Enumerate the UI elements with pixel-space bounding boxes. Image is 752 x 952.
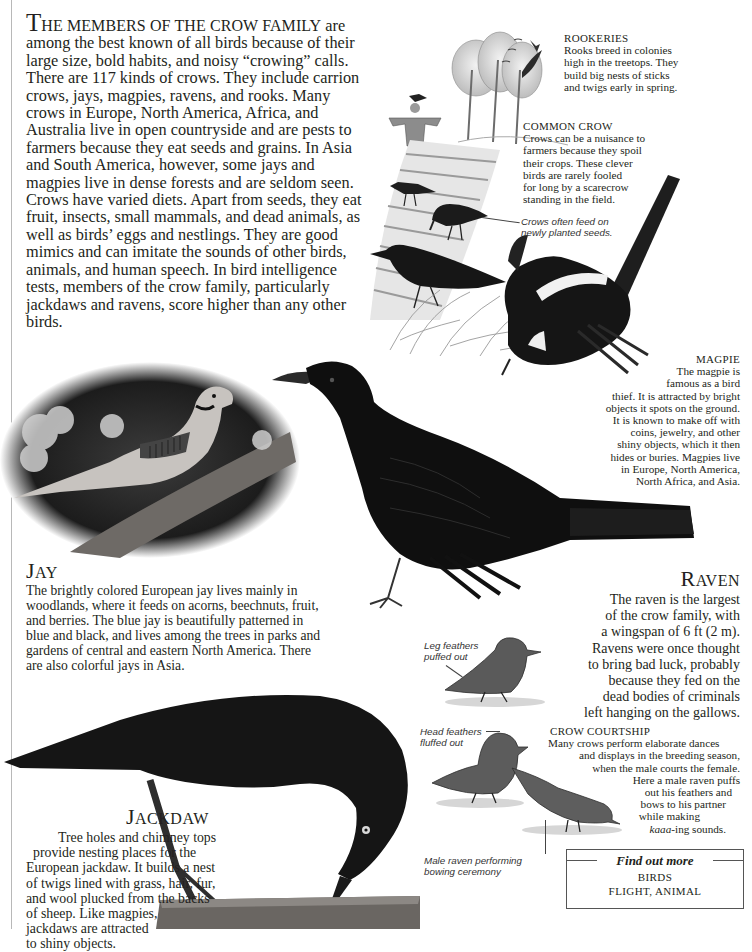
magpie-line: coins, jewelry, and other	[560, 426, 740, 438]
rookeries-caption: ROOKERIES Rooks breed in colonies high i…	[564, 32, 744, 93]
magpie-line: thief. It is attracted by bright	[560, 390, 740, 402]
courtship-caption: CROW COURTSHIP Many crows perform elabor…	[520, 725, 740, 835]
common-crow-line: Crows can be a nuisance to	[523, 132, 693, 144]
jackdaw-title: JACKDAW	[26, 806, 236, 830]
head-feathers-label: Head feathers fluffed out	[420, 726, 500, 748]
jay-section: JAY The brightly colored European jay li…	[26, 560, 366, 673]
rookeries-heading: ROOKERIES	[564, 32, 744, 44]
raven-line: of the crow family, with	[540, 608, 740, 624]
leg-label-line: puffed out	[424, 651, 494, 662]
courtship-line: Here a male raven puffs	[520, 774, 740, 786]
seeds-label: Crows often feed on newly planted seeds.	[521, 216, 651, 238]
jay-line: are also colorful jays in Asia.	[26, 659, 366, 674]
magpie-line: famous as a bird	[560, 377, 740, 389]
jackdaw-title-cap: J	[126, 804, 135, 829]
intro-paragraph: THE MEMBERS OF THE CROW FAMILY are among…	[26, 14, 366, 330]
magpie-line: hides or buries. Magpies live	[560, 451, 740, 463]
magpie-line: in Europe, North America,	[560, 463, 740, 475]
male-label-line: bowing ceremony	[424, 866, 554, 877]
common-crow-line: farmers because they spoil	[523, 144, 693, 156]
intro-text: are among the best known of all birds be…	[26, 16, 361, 331]
magpie-line: The magpie is	[560, 365, 740, 377]
jackdaw-line: to shiny objects.	[26, 936, 236, 951]
common-crow-line: for long by a scarecrow	[523, 181, 693, 193]
rookeries-line: high in the treetops. They	[564, 56, 744, 68]
courtship-line: and displays in the breeding season,	[520, 749, 740, 761]
jackdaw-line: of sheep. Like magpies,	[26, 906, 236, 921]
jay-title: JAY	[26, 560, 366, 584]
find-rule-right	[713, 860, 743, 861]
magpie-line: objects it spots on the ground.	[560, 402, 740, 414]
jackdaw-line: provide nesting places for the	[26, 845, 236, 860]
raven-title-smallcaps: AVEN	[696, 572, 740, 589]
leader-line	[486, 731, 500, 732]
jay-photo	[0, 362, 300, 558]
raven-title: RAVEN	[540, 568, 740, 592]
flying-rooks-icon	[500, 36, 560, 96]
jay-line: blue and black, and lives among the tree…	[26, 629, 366, 644]
seeds-label-line: newly planted seeds.	[521, 227, 651, 238]
common-crow-line: birds are rarely fooled	[523, 169, 693, 181]
intro-lead-smallcaps: HE MEMBERS OF THE CROW FAMILY	[41, 17, 321, 34]
find-out-more-box: Find out more BIRDS FLIGHT, ANIMAL	[566, 849, 744, 909]
magpie-line: shiny objects, which it then	[560, 438, 740, 450]
find-rule-left	[567, 860, 597, 861]
head-label-line: fluffed out	[420, 737, 500, 748]
magpie-heading: MAGPIE	[560, 353, 740, 365]
jackdaw-line: of twigs lined with grass, hair, fur,	[26, 876, 236, 891]
jackdaw-section: JACKDAW Tree holes and chimney tops prov…	[26, 806, 236, 952]
common-crow-line: their crops. These clever	[523, 157, 693, 169]
seeds-label-line: Crows often feed on	[521, 216, 651, 227]
magpie-line: It is known to make off with	[560, 414, 740, 426]
raven-line: Ravens were once thought	[540, 641, 740, 657]
find-link-birds[interactable]: BIRDS	[567, 870, 743, 884]
jackdaw-line: and wool plucked from the backs	[26, 891, 236, 906]
jay-line: The brightly colored European jay lives …	[26, 584, 366, 599]
find-link-flight-animal[interactable]: FLIGHT, ANIMAL	[567, 884, 743, 898]
common-crow-caption: COMMON CROW Crows can be a nuisance to f…	[523, 120, 693, 205]
male-label-line: Male raven performing	[424, 855, 554, 866]
courtship-line: Many crows perform elaborate dances	[520, 737, 740, 749]
courtship-line: while making	[520, 810, 740, 822]
kaaa-italic: kaaa	[650, 823, 672, 835]
courtship-line: out his feathers and	[520, 786, 740, 798]
jay-title-smallcaps: AY	[35, 564, 58, 581]
raven-line: a wingspan of 6 ft (2 m).	[540, 624, 740, 640]
courtship-last-line: kaaa-ing sounds.	[520, 823, 740, 835]
jackdaw-line: Tree holes and chimney tops	[26, 830, 236, 845]
jackdaw-line: jackdaws are attracted	[26, 921, 236, 936]
rookeries-line: Rooks breed in colonies	[564, 44, 744, 56]
magpie-line: North Africa, and Asia.	[560, 475, 740, 487]
male-raven-label: Male raven performing bowing ceremony	[424, 855, 554, 877]
jackdaw-title-smallcaps: ACKDAW	[135, 810, 209, 827]
raven-section: RAVEN The raven is the largest of the cr…	[540, 568, 740, 722]
jay-line: gardens of central and eastern North Ame…	[26, 644, 366, 659]
raven-line: The raven is the largest	[540, 592, 740, 608]
raven-line: to bring bad luck, probably	[540, 657, 740, 673]
jackdaw-line: European jackdaw. It builds a nest	[26, 860, 236, 875]
jay-line: woodlands, where it feeds on acorns, bee…	[26, 599, 366, 614]
rookeries-line: build big nests of sticks	[564, 69, 744, 81]
common-crow-heading: COMMON CROW	[523, 120, 693, 132]
courtship-heading: CROW COURTSHIP	[520, 725, 740, 737]
raven-line: because they fed on the	[540, 673, 740, 689]
crow-icon	[428, 200, 490, 242]
raven-title-cap: R	[680, 566, 695, 591]
raven-line: left hanging on the gallows.	[540, 705, 740, 721]
leg-feathers-label: Leg feathers puffed out	[424, 640, 494, 662]
find-out-more-title: Find out more	[616, 853, 693, 868]
courtship-line: when the male courts the female.	[520, 762, 740, 774]
leg-label-line: Leg feathers	[424, 640, 494, 651]
intro-drop-cap: T	[26, 9, 41, 36]
courtship-line: bows to his partner	[520, 798, 740, 810]
common-crow-line: standing in the field.	[523, 193, 693, 205]
jay-title-cap: J	[26, 558, 35, 583]
rookeries-line: and twigs early in spring.	[564, 81, 744, 93]
jay-line: and berries. The blue jay is beautifully…	[26, 614, 366, 629]
kaaa-rest: -ing sounds.	[671, 823, 726, 835]
magpie-caption: MAGPIE The magpie is famous as a bird th…	[560, 353, 740, 487]
raven-line: dead bodies of criminals	[540, 689, 740, 705]
